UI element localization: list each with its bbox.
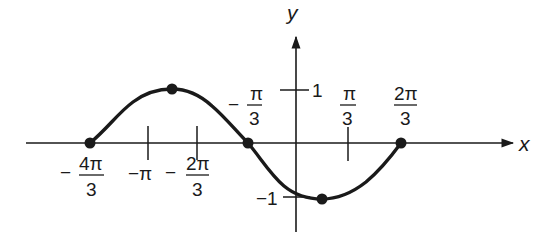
point-neg-4pi-3 bbox=[85, 138, 96, 149]
svg-text:3: 3 bbox=[192, 179, 203, 200]
svg-text:3: 3 bbox=[249, 108, 260, 129]
svg-text:−: − bbox=[60, 162, 71, 183]
svg-text:−: − bbox=[228, 94, 239, 115]
svg-text:3: 3 bbox=[342, 108, 353, 129]
svg-text:π: π bbox=[343, 83, 356, 104]
point-neg-pi-3 bbox=[243, 138, 254, 149]
point-2pi-3 bbox=[396, 138, 407, 149]
x-label-2pi-3: 2π 3 bbox=[394, 83, 418, 129]
svg-text:π: π bbox=[250, 83, 263, 104]
svg-text:2π: 2π bbox=[186, 153, 210, 174]
svg-text:3: 3 bbox=[86, 179, 97, 200]
x-label-neg-pi-3: − π 3 bbox=[228, 83, 263, 129]
svg-text:−: − bbox=[165, 162, 176, 183]
svg-text:3: 3 bbox=[400, 108, 411, 129]
x-axis-label: x bbox=[518, 132, 531, 155]
x-label-neg-2pi-3: − 2π 3 bbox=[165, 153, 210, 200]
point-trough bbox=[317, 194, 328, 205]
svg-text:4π: 4π bbox=[79, 153, 103, 174]
x-label-pi-3: π 3 bbox=[340, 83, 356, 129]
y-label-1: 1 bbox=[312, 80, 323, 101]
point-peak bbox=[167, 84, 178, 95]
x-label-neg-pi: −π bbox=[128, 163, 152, 184]
x-label-neg-4pi-3: − 4π 3 bbox=[60, 153, 104, 200]
y-axis-label: y bbox=[285, 1, 299, 24]
sine-graph: x y 1 −1 − 4π 3 −π − 2π 3 − π 3 π bbox=[0, 0, 559, 239]
y-label-neg1: −1 bbox=[256, 188, 278, 209]
svg-text:2π: 2π bbox=[394, 83, 418, 104]
